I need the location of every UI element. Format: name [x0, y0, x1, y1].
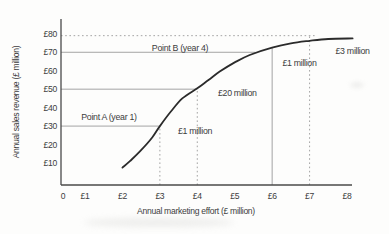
y-tick-label-50: £50 — [44, 84, 58, 94]
annotation-increment-20m: £20 million — [218, 88, 257, 98]
x-tick-label-3: £3 — [155, 191, 164, 201]
x-tick-label-2: £2 — [118, 191, 127, 201]
x-tick-label-0: 0 — [61, 191, 66, 201]
x-tick-label-1: £1 — [81, 191, 90, 201]
y-tick-label-20: £20 — [44, 140, 58, 150]
annotation-point-a: Point A (year 1) — [81, 112, 137, 122]
annotation-increment-3m: £3 million — [336, 46, 371, 56]
annotation-increment-1m-high: £1 million — [282, 58, 317, 68]
y-tick-label-30: £30 — [44, 121, 58, 131]
y-tick-label-70: £70 — [44, 47, 58, 57]
annotation-point-b: Point B (year 4) — [152, 43, 209, 53]
x-tick-label-8: £8 — [343, 191, 352, 201]
x-tick-label-6: £6 — [268, 191, 277, 201]
marketing-response-chart: £80£70£60£50£40£30£20£100£1£2£3£4£5£6£7£… — [0, 0, 389, 234]
y-tick-label-40: £40 — [44, 103, 58, 113]
chart-canvas: £80£70£60£50£40£30£20£100£1£2£3£4£5£6£7£… — [0, 0, 389, 234]
y-tick-label-10: £10 — [44, 158, 58, 168]
scan-smudge-small — [350, 82, 364, 88]
x-tick-label-5: £5 — [230, 191, 239, 201]
scan-smudge — [84, 218, 234, 227]
annotation-increment-1m-low: £1 million — [178, 126, 213, 136]
y-axis-title: Annual sales revenue (£ million) — [11, 27, 25, 177]
x-tick-label-7: £7 — [305, 191, 314, 201]
x-tick-label-4: £4 — [193, 191, 202, 201]
sales-response-curve — [122, 38, 352, 167]
y-tick-label-60: £60 — [44, 66, 58, 76]
y-tick-label-80: £80 — [44, 29, 58, 39]
